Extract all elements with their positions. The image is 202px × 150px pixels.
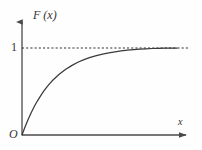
cdf-curve — [22, 48, 177, 135]
plot-canvas — [0, 0, 202, 150]
origin-label: O — [9, 128, 18, 140]
cdf-plot-figure: F (x) x 1 O — [0, 0, 202, 150]
y-axis-label: F (x) — [33, 9, 57, 21]
x-axis-label: x — [178, 117, 182, 127]
y-tick-label-one: 1 — [11, 41, 17, 53]
